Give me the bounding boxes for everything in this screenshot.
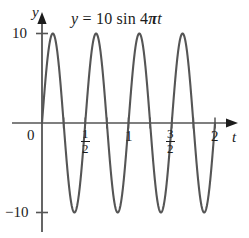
equation-lhs: y — [71, 10, 78, 27]
x-tick-label-one-half: 1 2 — [81, 127, 90, 156]
sine-wave-figure: y t 10 −10 0 1 2 1 3 2 2 y = 10 sin 4πt — [0, 0, 249, 238]
y-axis-label: y — [32, 5, 39, 20]
x-axis-arrowhead — [226, 119, 238, 128]
fraction-three-halves: 3 2 — [166, 127, 175, 156]
x-tick-label-one: 1 — [125, 129, 133, 144]
y-tick-label-minus-10: −10 — [5, 205, 28, 220]
fraction-denominator: 2 — [166, 142, 175, 155]
fraction-numerator: 3 — [166, 127, 175, 140]
equation-title: y = 10 sin 4πt — [71, 11, 162, 27]
equation-function: sin — [117, 10, 136, 27]
fraction-numerator: 1 — [81, 127, 90, 140]
y-tick-label-10: 10 — [12, 26, 27, 41]
equation-amplitude: 10 — [96, 10, 112, 27]
fraction-one-half: 1 2 — [81, 127, 90, 156]
x-tick-label-three-halves: 3 2 — [166, 127, 175, 156]
fraction-denominator: 2 — [81, 142, 90, 155]
x-axis-label: t — [232, 130, 236, 145]
plot-canvas — [0, 0, 249, 238]
equation-pi: π — [148, 10, 157, 27]
x-tick-label-two: 2 — [211, 129, 219, 144]
equation-variable: t — [157, 10, 162, 27]
origin-label: 0 — [27, 128, 35, 143]
equation-equals: = — [83, 10, 92, 27]
